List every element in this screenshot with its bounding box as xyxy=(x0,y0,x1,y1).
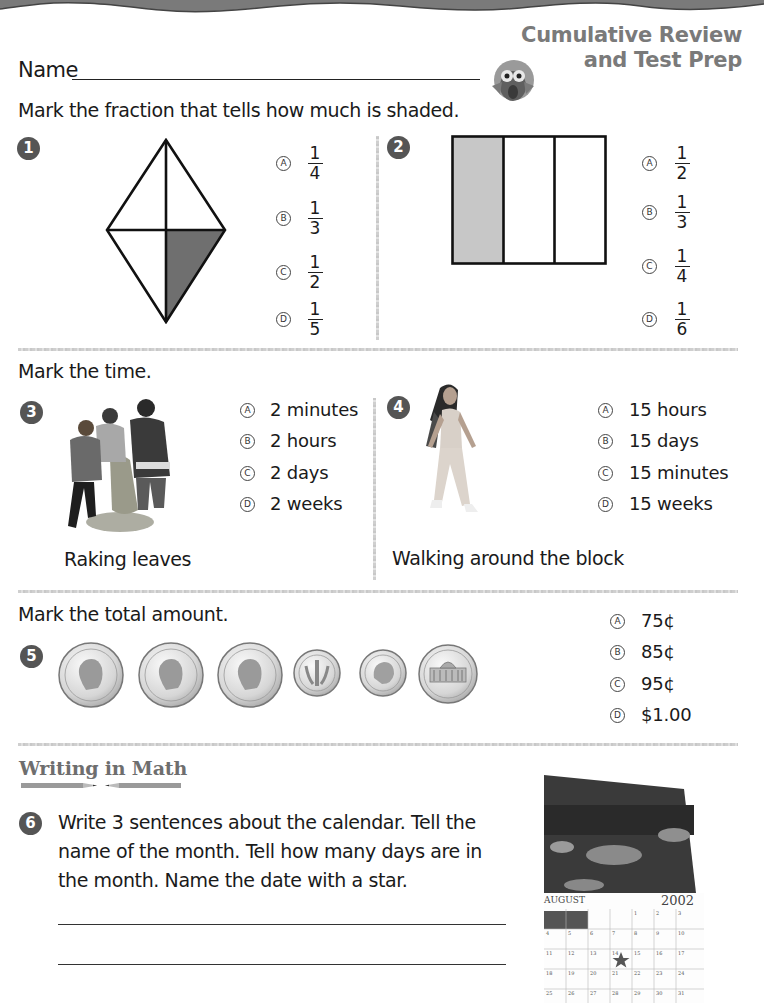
vertical-divider xyxy=(376,136,379,340)
section-divider-1 xyxy=(18,348,738,351)
svg-text:25: 25 xyxy=(546,990,552,996)
svg-text:2: 2 xyxy=(656,910,659,916)
calendar-image: AUGUST 2002 123 45678910 11121314151617 … xyxy=(544,775,704,1003)
option-bubble-d[interactable]: D xyxy=(240,497,255,512)
svg-text:15: 15 xyxy=(634,950,640,956)
question-number-6: 6 xyxy=(19,812,42,835)
option-bubble-b[interactable]: B xyxy=(610,645,625,660)
fractions-instruction: Mark the fraction that tells how much is… xyxy=(18,99,459,121)
fraction-option-c: 14 xyxy=(674,248,690,285)
owl-icon xyxy=(486,56,540,106)
calendar-grid: AUGUST 2002 123 45678910 11121314151617 … xyxy=(544,893,704,1003)
coins-row xyxy=(58,640,480,710)
svg-text:1: 1 xyxy=(634,910,637,916)
svg-text:27: 27 xyxy=(590,990,596,996)
name-input-line[interactable] xyxy=(72,79,480,80)
option-bubble-d[interactable]: D xyxy=(598,497,613,512)
option-text-d: 15 weeks xyxy=(629,493,713,514)
caption-raking-leaves: Raking leaves xyxy=(64,548,191,570)
top-wave-border xyxy=(0,0,764,20)
fraction-option-a: 14 xyxy=(307,145,323,182)
svg-text:3: 3 xyxy=(678,910,681,916)
quarter-icon xyxy=(139,643,203,707)
time-instruction: Mark the time. xyxy=(18,360,151,382)
option-bubble-a[interactable]: A xyxy=(610,614,625,629)
svg-text:7: 7 xyxy=(612,930,615,936)
option-bubble-b[interactable]: B xyxy=(240,434,255,449)
option-text-d: 2 weeks xyxy=(270,493,342,514)
svg-text:6: 6 xyxy=(590,930,593,936)
option-text-c: 2 days xyxy=(270,462,328,483)
option-text-c: 95¢ xyxy=(641,673,675,694)
option-text-a: 75¢ xyxy=(641,610,675,631)
question-number-1: 1 xyxy=(17,137,40,160)
option-bubble-d[interactable]: D xyxy=(276,312,291,327)
option-bubble-c[interactable]: C xyxy=(598,466,613,481)
calendar-lines: 123 45678910 11121314151617 181920212223… xyxy=(544,909,704,1003)
svg-text:20: 20 xyxy=(590,970,596,976)
answer-line-2[interactable] xyxy=(58,964,506,965)
svg-text:5: 5 xyxy=(568,930,571,936)
title-line-1: Cumulative Review xyxy=(521,23,742,48)
svg-text:26: 26 xyxy=(568,990,574,996)
title-line-2: and Test Prep xyxy=(521,48,742,73)
section-divider-2 xyxy=(18,590,738,593)
svg-text:8: 8 xyxy=(634,930,637,936)
question-number-2: 2 xyxy=(387,136,410,159)
option-text-c: 15 minutes xyxy=(629,462,729,483)
option-bubble-c[interactable]: C xyxy=(642,259,657,274)
walking-girl-photo xyxy=(416,380,496,528)
calendar-landscape-photo xyxy=(544,775,704,893)
option-bubble-b[interactable]: B xyxy=(276,211,291,226)
pencil-underline-icon xyxy=(19,782,183,789)
svg-text:9: 9 xyxy=(656,930,659,936)
option-bubble-d[interactable]: D xyxy=(610,708,625,723)
option-bubble-c[interactable]: C xyxy=(240,466,255,481)
fraction-option-d: 15 xyxy=(307,301,323,338)
option-bubble-c[interactable]: C xyxy=(276,265,291,280)
question-number-3: 3 xyxy=(20,401,43,424)
fraction-option-c: 12 xyxy=(307,254,323,291)
option-bubble-a[interactable]: A xyxy=(598,403,613,418)
svg-text:10: 10 xyxy=(678,930,684,936)
svg-text:19: 19 xyxy=(568,970,574,976)
nickel-icon xyxy=(419,645,477,703)
question-number-4: 4 xyxy=(387,396,410,419)
option-bubble-b[interactable]: B xyxy=(642,205,657,220)
kite-figure xyxy=(105,138,227,324)
option-bubble-d[interactable]: D xyxy=(642,312,657,327)
svg-text:17: 17 xyxy=(678,950,684,956)
writing-in-math-title: Writing in Math xyxy=(19,757,187,779)
writing-prompt: Write 3 sentences about the calendar. Te… xyxy=(58,808,498,895)
quarter-icon xyxy=(218,643,282,707)
option-text-b: 2 hours xyxy=(270,430,336,451)
option-bubble-a[interactable]: A xyxy=(276,156,291,171)
svg-text:13: 13 xyxy=(590,950,596,956)
question-number-5: 5 xyxy=(20,645,43,668)
svg-text:28: 28 xyxy=(612,990,618,996)
page-title: Cumulative Review and Test Prep xyxy=(521,23,742,73)
name-label: Name xyxy=(18,58,78,82)
caption-walking: Walking around the block xyxy=(392,547,624,569)
svg-text:16: 16 xyxy=(656,950,662,956)
svg-text:23: 23 xyxy=(656,970,662,976)
fraction-option-d: 16 xyxy=(674,301,690,338)
calendar-month: AUGUST xyxy=(544,895,585,905)
option-bubble-c[interactable]: C xyxy=(610,677,625,692)
option-bubble-b[interactable]: B xyxy=(598,434,613,449)
option-bubble-a[interactable]: A xyxy=(240,403,255,418)
svg-text:18: 18 xyxy=(546,970,552,976)
answer-line-1[interactable] xyxy=(58,924,506,925)
vertical-divider xyxy=(373,398,376,580)
svg-text:24: 24 xyxy=(678,970,684,976)
calendar-year: 2002 xyxy=(661,893,694,908)
dime-back-icon xyxy=(294,650,340,696)
fraction-option-b: 13 xyxy=(674,194,690,231)
dime-front-icon xyxy=(360,650,406,696)
option-bubble-a[interactable]: A xyxy=(642,156,657,171)
svg-text:31: 31 xyxy=(678,990,684,996)
rectangle-figure xyxy=(451,135,607,265)
svg-text:4: 4 xyxy=(546,930,549,936)
section-divider-3 xyxy=(18,743,738,746)
money-instruction: Mark the total amount. xyxy=(18,603,228,625)
